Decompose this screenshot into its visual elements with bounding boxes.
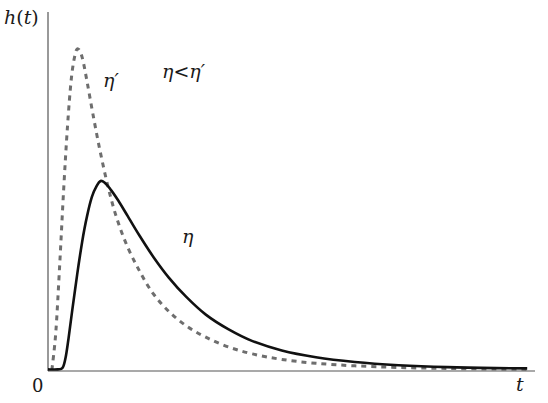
eta-prime-label: η′ bbox=[103, 69, 119, 91]
eta-solid-curve bbox=[48, 181, 527, 370]
comparison-annotation: η<η′ bbox=[162, 60, 206, 82]
x-axis-label: t bbox=[516, 373, 524, 395]
impulse-response-chart: h(t) 0 t η′ η η<η′ bbox=[0, 0, 548, 403]
y-axis-label: h(t) bbox=[4, 6, 39, 28]
eta-label: η bbox=[182, 225, 194, 247]
origin-label: 0 bbox=[32, 375, 43, 396]
